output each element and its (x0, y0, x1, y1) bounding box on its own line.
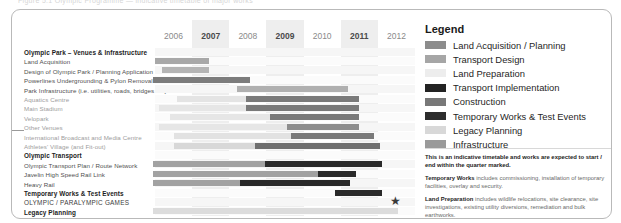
row-label-column: Olympic Park – Venues & InfrastructureLa… (24, 20, 155, 219)
legend-item-label: Construction (453, 96, 506, 107)
legend-swatch (425, 84, 446, 92)
gantt-chart: Olympic Park – Venues & InfrastructureLa… (24, 20, 420, 219)
legend-item: Legacy Planning (425, 123, 612, 137)
legend-item: Land Preparation (425, 66, 612, 80)
year-label-2010: 2010 (304, 29, 341, 43)
legend-item-label: Land Acquisition / Planning (453, 40, 566, 51)
legend-note: Land Preparation includes wildlife reloc… (425, 195, 611, 219)
gantt-bar (153, 180, 240, 186)
legend: Legend Land Acquisition / PlanningTransp… (425, 20, 612, 218)
legend-swatch (425, 41, 446, 49)
row-stripe (155, 198, 415, 206)
gantt-bar (291, 133, 375, 139)
legend-item: Land Acquisition / Planning (425, 38, 612, 52)
legend-swatch (425, 112, 446, 120)
gantt-bar (240, 180, 350, 186)
legend-swatch (425, 69, 446, 77)
legend-swatch (425, 55, 446, 63)
gantt-bar (246, 105, 359, 111)
year-label-2011: 2011 (341, 29, 378, 43)
legend-item: Construction (425, 95, 612, 109)
legend-item-label: Transport Implementation (453, 82, 559, 93)
legend-item: Infrastructure (425, 137, 612, 151)
legend-swatch (425, 126, 446, 134)
year-label-2009: 2009 (266, 29, 303, 43)
timeline-grid: 2006200720082009201020112012★ (155, 20, 415, 219)
gantt-bar (153, 208, 398, 214)
legend-note: Temporary Works includes commissioning, … (425, 174, 611, 190)
gantt-bar (246, 96, 359, 102)
gantt-bar (174, 133, 291, 139)
games-star-icon: ★ (390, 195, 401, 207)
legend-item: Temporary Works & Test Events (425, 109, 612, 123)
gantt-bar (159, 124, 287, 130)
gantt-bar (265, 161, 382, 167)
legend-item-label: Transport Design (453, 54, 525, 65)
legend-item: Transport Implementation (425, 81, 612, 95)
row-stripe (155, 151, 415, 159)
chart-panel: Olympic Park – Venues & InfrastructureLa… (11, 9, 612, 219)
legend-divider (425, 148, 611, 149)
panel-edge-tick (12, 130, 24, 131)
legend-item-label: Legacy Planning (453, 125, 522, 136)
gantt-chart-screenshot: Figure 5.1 Olympic Programme — indicativ… (0, 0, 621, 223)
cropped-header-text: Figure 5.1 Olympic Programme — indicativ… (18, 0, 398, 7)
gantt-bar (153, 171, 318, 177)
gantt-bar (153, 77, 250, 83)
legend-item-label: Temporary Works & Test Events (453, 111, 586, 122)
year-label-2006: 2006 (155, 29, 192, 43)
year-label-2007: 2007 (192, 29, 229, 43)
gantt-bar (174, 143, 256, 149)
gantt-bar (255, 143, 379, 149)
gantt-bar (287, 124, 359, 130)
legend-note-lead: Land Preparation (425, 196, 473, 202)
legend-title: Legend (425, 23, 464, 35)
legend-note: This is an indicative timetable and work… (425, 153, 611, 169)
gantt-bar (270, 114, 359, 120)
gantt-bar (335, 190, 381, 196)
gantt-bar (153, 161, 264, 167)
legend-item-label: Land Preparation (453, 68, 525, 79)
year-label-2008: 2008 (229, 29, 266, 43)
gantt-row-label: Legacy Planning (24, 208, 76, 218)
gantt-bar (155, 58, 209, 64)
year-label-2012: 2012 (378, 29, 415, 43)
gantt-bar (318, 171, 355, 177)
gantt-bar (237, 86, 348, 92)
row-stripe (155, 48, 415, 56)
legend-items: Land Acquisition / PlanningTransport Des… (425, 38, 612, 152)
legend-swatch (425, 98, 446, 106)
legend-notes: This is an indicative timetable and work… (425, 153, 611, 219)
legend-item: Transport Design (425, 52, 612, 66)
gantt-bar (162, 67, 208, 73)
legend-note-lead: Temporary Works (425, 175, 475, 181)
gantt-bar (170, 114, 270, 120)
gantt-bar (159, 105, 246, 111)
gantt-bar (177, 96, 246, 102)
